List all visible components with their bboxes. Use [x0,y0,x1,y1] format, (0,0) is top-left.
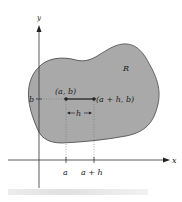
point1-label: (a, b) [55,87,76,96]
tick-a-label: a [63,168,68,177]
bottom-bar [8,189,148,195]
point2-label: (a + h, b) [96,95,134,104]
axis-y-label: y [36,14,42,22]
y-axis-arrow-icon [37,25,42,32]
point-a-b [64,97,68,101]
region-r [28,44,159,143]
region-label: R [122,64,129,73]
x-axis-arrow-icon [163,158,170,163]
h-label: h [76,109,81,118]
axis-x-label: x [172,156,177,165]
tick-b-label: b [29,95,34,104]
diagram-canvas: y x R (a, b) (a + h, b) h b a a + h [0,0,182,202]
tick-ah-label: a + h [81,168,103,177]
